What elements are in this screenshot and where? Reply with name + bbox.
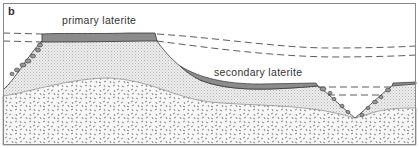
secondary-laterite-label: secondary laterite (214, 66, 302, 78)
panel-label: b (8, 5, 15, 17)
primary-laterite-layer (42, 33, 157, 42)
laterite-cross-section-figure: b primary laterite secondary laterite (0, 0, 419, 148)
primary-laterite-label: primary laterite (62, 14, 136, 26)
